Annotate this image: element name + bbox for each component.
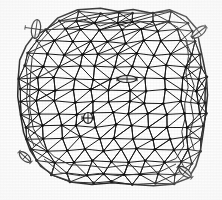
mesh-figure: Unstructured triangular mesh on irregula… <box>0 0 222 200</box>
ellipse-marker-horizontal <box>117 76 137 83</box>
mesh-canvas <box>0 0 222 200</box>
